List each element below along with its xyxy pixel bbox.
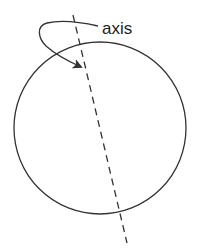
sphere-axis-diagram: axis: [0, 0, 198, 249]
sphere-outline: [14, 42, 186, 214]
axis-label: axis: [102, 19, 132, 38]
rotation-axis-line: [73, 15, 127, 243]
